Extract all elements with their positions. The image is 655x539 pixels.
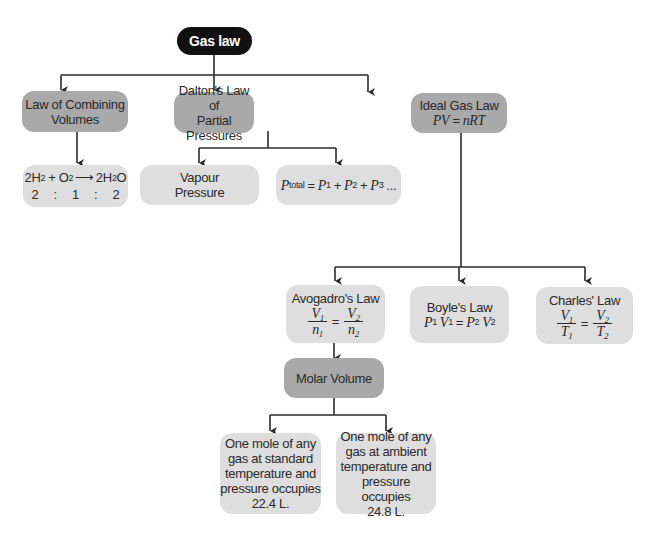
node-daltons-law: Dalton's Law of Partial Pressures	[174, 92, 254, 133]
node-ideal-gas-law: Ideal Gas Law PV = nRT	[411, 93, 507, 133]
node-total-pressure: Ptotal = P1 + P2 + P3 ...	[276, 165, 401, 205]
node-label-line: Volumes	[51, 112, 99, 127]
node-label-line: Partial Pressures	[174, 113, 254, 143]
node-label-line: Law of Combining	[25, 97, 124, 112]
node-gas-law: Gas law	[177, 27, 252, 55]
node-vapour-pressure: Vapour Pressure	[140, 165, 259, 205]
avogadro-equation: V1 n1 = V2 n2	[306, 306, 364, 337]
reaction-arrow-icon: ⟶	[75, 170, 94, 185]
boyle-equation: P1 V1 = P2 V2	[424, 315, 495, 330]
node-label-line: Vapour	[180, 170, 219, 185]
charles-equation: V1 T1 = V2 T2	[555, 308, 613, 339]
node-label: Molar Volume	[296, 371, 372, 386]
node-label-line: Pressure	[175, 185, 225, 200]
node-law-of-combining-volumes: Law of Combining Volumes	[22, 91, 128, 132]
node-avogadros-law: Avogadro's Law V1 n1 = V2 n2	[286, 285, 385, 343]
node-gas-law-label: Gas law	[189, 34, 240, 49]
node-charles-law: Charles' Law V1 T1 = V2 T2	[536, 287, 633, 344]
node-reaction-equation: 2H2 + O2 ⟶ 2H2O 2 : 1 : 2	[23, 165, 128, 207]
connector-lines	[0, 0, 655, 539]
node-label: Avogadro's Law	[292, 291, 380, 306]
node-label-line: Dalton's Law of	[174, 83, 254, 113]
node-boyles-law: Boyle's Law P1 V1 = P2 V2	[410, 286, 509, 343]
node-molar-volume-ambient: One mole of any gas at ambient temperatu…	[336, 433, 436, 514]
node-label: Ideal Gas Law	[419, 98, 498, 113]
total-pressure-equation: Ptotal = P1 + P2 + P3 ...	[281, 178, 397, 193]
node-label: Charles' Law	[549, 293, 620, 308]
node-molar-volume-stp: One mole of any gas at standard temperat…	[220, 433, 321, 514]
mole-ratio: 2 : 1 : 2	[32, 187, 120, 202]
node-label: Boyle's Law	[427, 300, 493, 315]
ideal-gas-equation: PV = nRT	[433, 113, 485, 128]
node-molar-volume: Molar Volume	[284, 358, 384, 398]
reaction-equation: 2H2 + O2 ⟶ 2H2O	[25, 170, 127, 185]
